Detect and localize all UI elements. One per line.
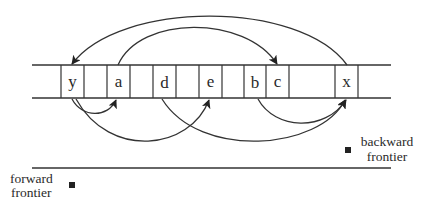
diagram-canvas: y a d e b c x backward frontier forward … xyxy=(0,0,435,214)
cell-c: c xyxy=(274,72,282,91)
arc-y-to-a xyxy=(72,99,116,113)
forward-frontier-label-line2: frontier xyxy=(11,185,52,200)
cell-x: x xyxy=(342,72,351,91)
forward-frontier-label-line1: forward xyxy=(10,171,53,186)
arc-y-to-e xyxy=(76,99,209,141)
cell-y: y xyxy=(68,72,77,91)
backward-frontier-label-line2: frontier xyxy=(367,149,408,164)
cell-d: d xyxy=(160,73,169,92)
forward-frontier-marker xyxy=(69,182,75,188)
arc-d-to-x xyxy=(162,99,345,141)
backward-frontier-marker xyxy=(345,147,351,153)
arc-a-to-c xyxy=(118,27,277,65)
arc-b-to-x xyxy=(258,99,346,123)
cell-a: a xyxy=(115,72,123,91)
cell-b: b xyxy=(251,73,260,92)
cell-e: e xyxy=(207,72,215,91)
arc-x-to-y xyxy=(72,16,347,65)
backward-frontier-label-line1: backward xyxy=(361,134,414,149)
